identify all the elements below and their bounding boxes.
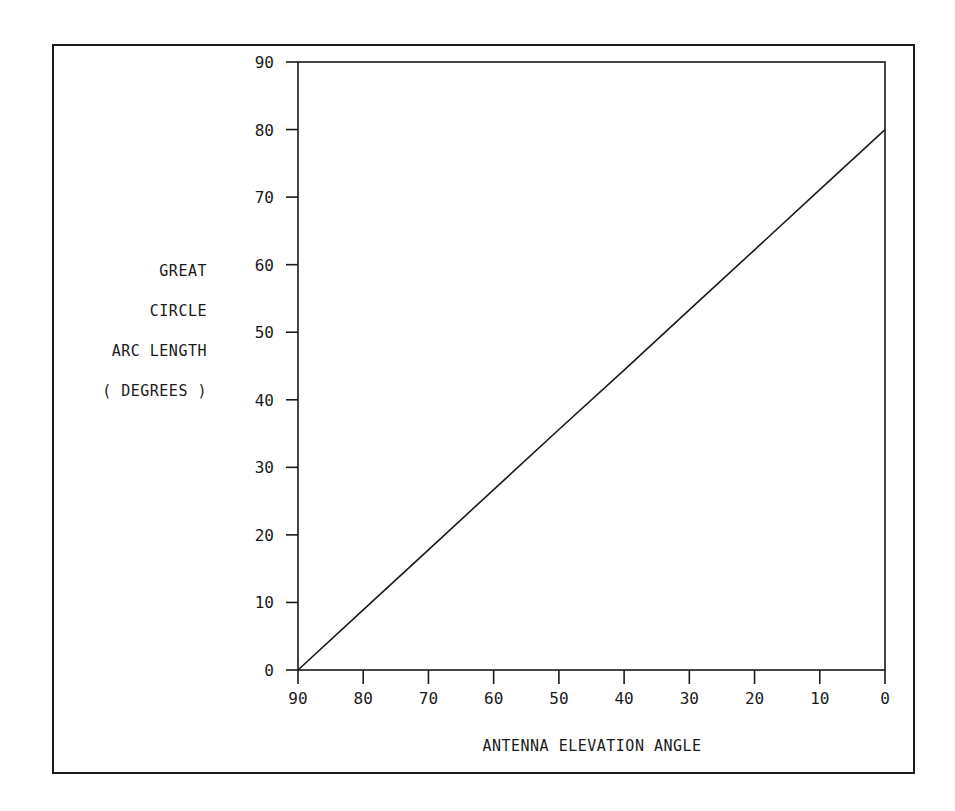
x-tick-label: 40 [614,689,633,708]
y-tick-label: 90 [255,53,274,72]
y-axis-label-line-4: ( DEGREES ) [102,382,207,400]
y-tick-label: 0 [264,661,274,680]
x-tick-label: 90 [288,689,307,708]
y-tick-label: 30 [255,458,274,477]
x-tick-label: 80 [354,689,373,708]
x-tick-label: 60 [484,689,503,708]
x-tick-label: 50 [549,689,568,708]
x-tick-label: 10 [810,689,829,708]
plot-area [298,62,885,670]
y-axis-label-line-1: GREAT [159,262,207,280]
data-line [298,130,885,670]
line-chart: 01020304050607080909080706050403020100 [0,0,955,811]
y-tick-label: 20 [255,526,274,545]
x-tick-label: 20 [745,689,764,708]
x-tick-label: 30 [680,689,699,708]
y-tick-label: 70 [255,188,274,207]
y-tick-label: 80 [255,121,274,140]
x-tick-label: 70 [419,689,438,708]
y-tick-label: 10 [255,593,274,612]
x-tick-label: 0 [880,689,890,708]
x-axis-title: ANTENNA ELEVATION ANGLE [298,737,886,755]
y-axis-label-line-3: ARC LENGTH [112,342,207,360]
y-axis-label-line-2: CIRCLE [150,302,207,320]
y-tick-label: 40 [255,391,274,410]
y-tick-label: 50 [255,323,274,342]
y-tick-label: 60 [255,256,274,275]
